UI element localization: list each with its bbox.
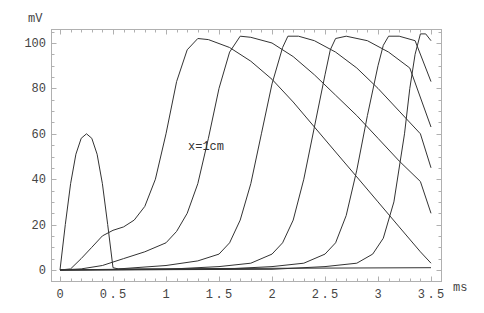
y-tick-label: 60: [32, 128, 46, 142]
x-tick-label: 1: [162, 288, 169, 302]
x-tick-label: 0 . 5: [100, 288, 126, 302]
x-tick-label: 0: [56, 288, 63, 302]
annotation-x-1cm: x=1cm: [188, 140, 224, 154]
series-curve-5: [60, 36, 431, 270]
x-tick-label: 3 . 5: [418, 288, 444, 302]
series-curve-6: [60, 34, 431, 270]
x-tick-label: 3: [374, 288, 381, 302]
x-axis-tick-labels: 00 . 511 . 522 . 533 . 5: [56, 288, 444, 302]
x-axis-label: ms: [453, 281, 467, 295]
line-chart: 00 . 511 . 522 . 533 . 5 020406080100 mV…: [0, 0, 484, 313]
y-tick-label: 0: [39, 264, 46, 278]
y-tick-label: 80: [32, 82, 46, 96]
x-tick-label: 2 . 5: [312, 288, 338, 302]
x-tick-label: 2: [268, 288, 275, 302]
y-axis-label: mV: [28, 12, 43, 26]
y-tick-label: 40: [32, 173, 46, 187]
series-curve-1: [60, 39, 431, 271]
y-tick-label: 100: [24, 37, 46, 51]
series-curve-2: [60, 36, 431, 270]
series-curve-4: [60, 36, 431, 270]
series-curve-3: [60, 36, 431, 270]
x-tick-label: 1 . 5: [206, 288, 232, 302]
y-axis-tick-labels: 020406080100: [24, 37, 46, 278]
plot-curves: [60, 34, 431, 270]
y-tick-label: 20: [32, 219, 46, 233]
